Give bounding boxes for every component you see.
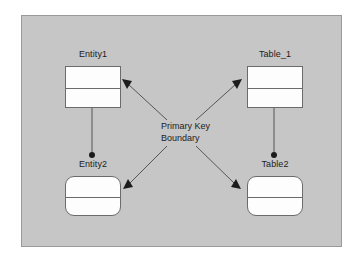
entity-label-entity1: Entity1 xyxy=(65,49,121,60)
entity-box-entity2[interactable] xyxy=(65,176,121,216)
entity-divider xyxy=(248,88,302,89)
entity-divider xyxy=(66,88,120,89)
center-annotation-line2: Boundary xyxy=(161,132,200,144)
diagram-root: Entity1 Table_1 Entity2 Table2 Primary K… xyxy=(0,0,363,263)
entity-label-entity2: Entity2 xyxy=(65,159,121,170)
center-annotation-line1: Primary Key xyxy=(161,120,210,132)
entity-box-table2[interactable] xyxy=(247,176,303,216)
entity-divider xyxy=(248,197,302,198)
entity-box-table_1[interactable] xyxy=(247,66,303,108)
entity-box-entity1[interactable] xyxy=(65,66,121,108)
entity-label-table2: Table2 xyxy=(247,159,303,170)
entity-divider xyxy=(66,197,120,198)
entity-label-table_1: Table_1 xyxy=(247,49,303,60)
